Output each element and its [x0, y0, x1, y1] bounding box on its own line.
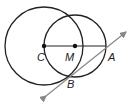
point-c [42, 44, 46, 48]
geometry-figure: C M A B [0, 0, 139, 104]
label-b: B [67, 78, 74, 90]
tangent-line [46, 32, 126, 96]
label-a: A [108, 51, 115, 63]
label-c: C [37, 51, 45, 63]
label-m: M [65, 51, 74, 63]
point-m [73, 44, 77, 48]
